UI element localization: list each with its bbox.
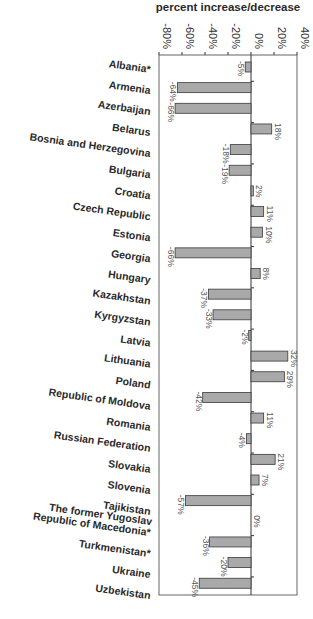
data-label: 10% <box>264 226 274 243</box>
category-label-text: Kazakhstan <box>92 287 151 307</box>
data-label: -36% <box>201 536 211 556</box>
category-label-text: Albania* <box>108 57 152 75</box>
category-label-text: Slovakia <box>108 457 152 475</box>
category-label-text: Estonia <box>112 226 151 243</box>
bar <box>208 289 251 299</box>
data-label: -42% <box>194 391 204 411</box>
category-label: Hungary <box>108 268 152 286</box>
category-label: Bulgaria <box>108 162 151 180</box>
bar <box>213 310 251 320</box>
data-label: 2% <box>254 185 264 198</box>
category-label: Lithuania <box>104 351 152 369</box>
category-label-text: Georgia <box>110 247 151 264</box>
category-label-text: Russian Federation <box>53 428 151 453</box>
bar <box>175 103 251 113</box>
data-label: -2% <box>240 329 250 345</box>
category-label: Latvia <box>120 333 152 349</box>
bar <box>251 372 284 382</box>
category-label-text: Romania <box>106 415 152 433</box>
category-label: Slovenia <box>107 478 152 496</box>
category-label-text: Lithuania <box>104 351 152 369</box>
category-label: Belarus <box>112 121 152 138</box>
data-label: -33% <box>204 309 214 329</box>
bar <box>229 165 251 175</box>
category-label: Ukraine <box>112 563 152 580</box>
category-label: Uzbekistan <box>95 582 152 602</box>
category-label: Republic of Moldova <box>48 386 151 412</box>
chart-title: percent increase/decrease <box>156 1 300 13</box>
bar <box>230 145 251 155</box>
category-label-text: Republic of Moldova <box>48 386 151 412</box>
category-label-text: Croatia <box>114 184 152 201</box>
data-label: 18% <box>273 123 283 140</box>
bar-chart: percent increase/decrease -80%-60%-40%-2… <box>0 0 313 619</box>
data-label: -66% <box>166 102 176 122</box>
category-label: Albania* <box>108 57 152 75</box>
data-label: -37% <box>199 288 209 308</box>
category-label: Kazakhstan <box>92 287 151 307</box>
category-label-text: Czech Republic <box>72 200 151 223</box>
x-tick-label: 20% <box>276 27 288 49</box>
bar <box>210 537 251 547</box>
data-label: 11% <box>265 412 275 429</box>
bar <box>251 207 264 217</box>
category-label: Slovakia <box>108 457 152 475</box>
bar <box>251 351 288 361</box>
category-label: Estonia <box>112 226 151 243</box>
bar <box>199 578 251 588</box>
data-label: 32% <box>289 350 299 367</box>
x-axis: -80%-60%-40%-20%0%20%40% <box>159 23 311 55</box>
category-label: Turkmenistan* <box>78 537 152 559</box>
data-label: -20% <box>219 557 229 577</box>
category-label: Poland <box>115 374 151 391</box>
data-label: -18% <box>221 144 231 164</box>
category-label-text: Poland <box>115 374 151 391</box>
data-label: 29% <box>285 371 295 388</box>
bar <box>177 83 251 93</box>
bar <box>228 558 251 568</box>
data-label: -4% <box>237 433 247 449</box>
data-label: 21% <box>276 453 286 470</box>
data-label: -64% <box>168 82 178 102</box>
category-label-text: Turkmenistan* <box>78 537 152 559</box>
data-label: -57% <box>176 495 186 515</box>
category-label: Russian Federation <box>53 428 151 453</box>
x-tick-label: 0% <box>253 33 265 49</box>
bar <box>185 496 251 506</box>
data-label: 8% <box>261 268 271 281</box>
x-tick-label: -60% <box>184 23 196 49</box>
bar <box>251 454 275 464</box>
category-label: Armenia <box>108 78 151 96</box>
category-label-text: Armenia <box>108 78 151 96</box>
data-label: 0% <box>252 515 262 528</box>
category-label-text: Bulgaria <box>108 162 151 180</box>
bar <box>203 392 251 402</box>
bar <box>251 475 259 485</box>
x-tick-label: -80% <box>161 23 173 49</box>
bar <box>251 269 260 279</box>
category-label-text: Slovenia <box>107 478 152 496</box>
category-label: Croatia <box>114 184 152 201</box>
category-label-text: Uzbekistan <box>95 582 152 602</box>
bar <box>175 248 251 258</box>
bar <box>251 227 263 237</box>
data-label: 7% <box>260 474 270 487</box>
category-label-text: Latvia <box>120 333 152 349</box>
bar <box>251 124 272 134</box>
category-label: Romania <box>106 415 152 433</box>
data-label: -66% <box>166 247 176 267</box>
category-label-text: Azerbaijan <box>97 98 151 117</box>
data-label: -45% <box>190 577 200 597</box>
data-label: -5% <box>236 61 246 77</box>
category-label-text: Hungary <box>108 268 152 286</box>
x-tick-label: 40% <box>299 27 311 49</box>
category-label-text: Ukraine <box>112 563 152 580</box>
category-label: Czech Republic <box>72 200 151 223</box>
category-label-text: Belarus <box>112 121 152 138</box>
data-label: -19% <box>220 164 230 184</box>
category-label: Kyrgyzstan <box>94 308 152 328</box>
category-label: Azerbaijan <box>97 98 151 117</box>
plot-area: -5%-64%-66%18%-18%-19%2%11%10%-66%8%-37%… <box>159 55 299 598</box>
bar <box>251 186 253 196</box>
x-tick-label: -40% <box>207 23 219 49</box>
